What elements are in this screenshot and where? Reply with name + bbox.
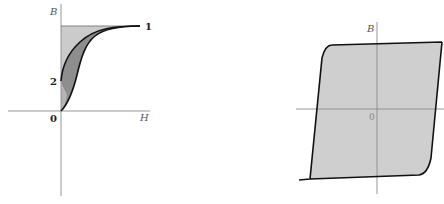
point-1-label: 1 [145, 21, 152, 32]
left-y-axis-label: B [49, 6, 57, 17]
point-2-label: 2 [50, 76, 57, 87]
left-origin-label: 0 [50, 113, 57, 124]
figure-canvas: B H 0 1 2 B 0 [0, 0, 444, 204]
left-x-axis-label: H [139, 112, 149, 123]
right-y-axis-label: B [366, 23, 374, 34]
right-origin-label: 0 [369, 112, 375, 122]
left-diagram: B H 0 1 2 [8, 4, 152, 196]
right-diagram: B 0 [296, 22, 444, 194]
hysteresis-loop-fill [310, 42, 442, 179]
